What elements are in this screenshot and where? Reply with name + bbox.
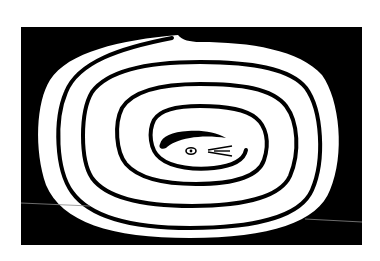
snake-pupil (190, 150, 193, 153)
snake-spiral-artwork (0, 0, 380, 261)
